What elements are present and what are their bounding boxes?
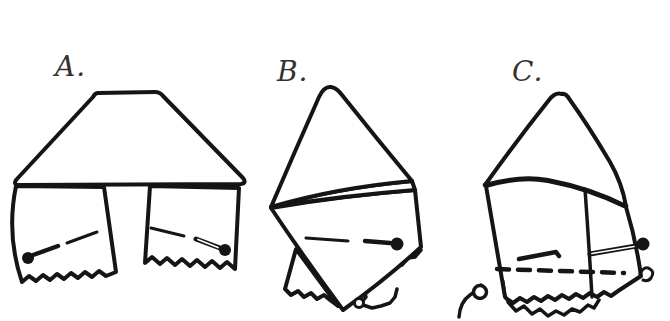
figure-a-drawing (12, 92, 244, 282)
hem-ring (355, 299, 364, 308)
right-lappet-panel (145, 186, 239, 269)
pin-head (637, 238, 650, 251)
pin-head (219, 244, 231, 256)
figure-b-drawing (271, 87, 421, 310)
curl-decoration (459, 285, 487, 317)
line-art-drawing (0, 0, 670, 321)
left-lappet-panel (12, 186, 116, 282)
scarf-folding-illustration: A. B. C. (0, 0, 670, 321)
pin-shaft (365, 241, 390, 243)
under-hem-zigzag (508, 300, 599, 316)
curl-loop (474, 286, 487, 299)
pin-head (391, 238, 404, 251)
crown-panel (15, 92, 245, 185)
figure-c-drawing (459, 94, 653, 317)
corner-dart-line (503, 281, 505, 295)
